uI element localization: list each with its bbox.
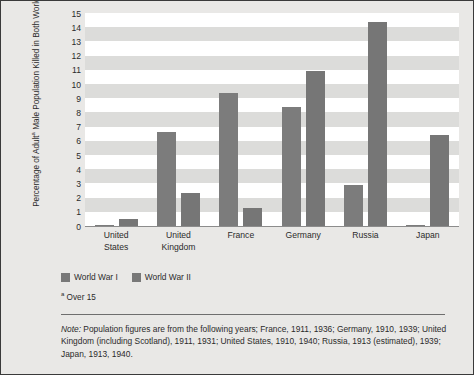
y-axis-title: Percentage of Adulta Male Population Kil…: [27, 7, 43, 207]
y-axis-tick-labels: 1514131211109876543210: [59, 14, 81, 230]
legend-swatch-icon: [61, 273, 70, 282]
bar: [306, 71, 325, 226]
bar-groups: [85, 13, 459, 226]
y-tick-2: 2: [59, 194, 81, 203]
x-tick-label: UnitedStates: [85, 230, 147, 253]
x-tick-label: France: [210, 230, 272, 253]
y-axis-title-part1: Percentage of Adult: [32, 135, 41, 206]
bar-group: [397, 13, 459, 226]
y-tick-12: 12: [59, 52, 81, 61]
y-tick-9: 9: [59, 95, 81, 104]
bar-group: [334, 13, 396, 226]
y-tick-14: 14: [59, 24, 81, 33]
bar: [181, 193, 200, 226]
x-tick-label: Japan: [397, 230, 459, 253]
y-tick-0: 0: [59, 223, 81, 232]
y-tick-11: 11: [59, 66, 81, 75]
y-tick-3: 3: [59, 180, 81, 189]
bar: [243, 208, 262, 226]
note-block: Note: Population figures are from the fo…: [61, 323, 449, 360]
y-axis-title-superscript: a: [30, 132, 36, 135]
plot-grid: [85, 13, 459, 226]
bar: [344, 185, 363, 226]
y-axis-title-part2: Male Population Killed in Both World War…: [32, 0, 41, 132]
legend-label: World War II: [145, 272, 191, 282]
x-tick-label: Germany: [272, 230, 334, 253]
bar: [119, 219, 138, 226]
bar-group: [147, 13, 209, 226]
x-tick-label: UnitedKingdom: [147, 230, 209, 253]
y-tick-8: 8: [59, 109, 81, 118]
bar: [282, 107, 301, 226]
y-tick-5: 5: [59, 152, 81, 161]
y-tick-6: 6: [59, 137, 81, 146]
y-tick-10: 10: [59, 81, 81, 90]
bar: [157, 132, 176, 226]
x-axis-line: [85, 226, 459, 227]
bar: [219, 93, 238, 226]
note-text: Population figures are from the followin…: [61, 324, 446, 359]
note-divider: [61, 314, 445, 315]
chart-legend: World War IWorld War II: [61, 272, 191, 282]
y-tick-1: 1: [59, 208, 81, 217]
bar-group: [210, 13, 272, 226]
legend-swatch-icon: [132, 273, 141, 282]
legend-item: World War II: [132, 272, 191, 282]
footnote-text: Over 15: [64, 293, 95, 302]
y-tick-15: 15: [59, 10, 81, 19]
y-tick-7: 7: [59, 123, 81, 132]
bar: [368, 22, 387, 226]
bar-chart: Percentage of Adulta Male Population Kil…: [1, 1, 473, 263]
bar-group: [272, 13, 334, 226]
figure-container: Percentage of Adulta Male Population Kil…: [0, 0, 474, 375]
legend-item: World War I: [61, 272, 118, 282]
x-tick-label: Russia: [334, 230, 396, 253]
bar: [430, 135, 449, 226]
legend-label: World War I: [74, 272, 118, 282]
y-tick-13: 13: [59, 38, 81, 47]
footnote: a Over 15: [61, 291, 96, 302]
bar-group: [85, 13, 147, 226]
note-label: Note:: [61, 324, 81, 334]
y-tick-4: 4: [59, 166, 81, 175]
x-axis-tick-labels: UnitedStatesUnitedKingdomFranceGermanyRu…: [85, 230, 459, 253]
